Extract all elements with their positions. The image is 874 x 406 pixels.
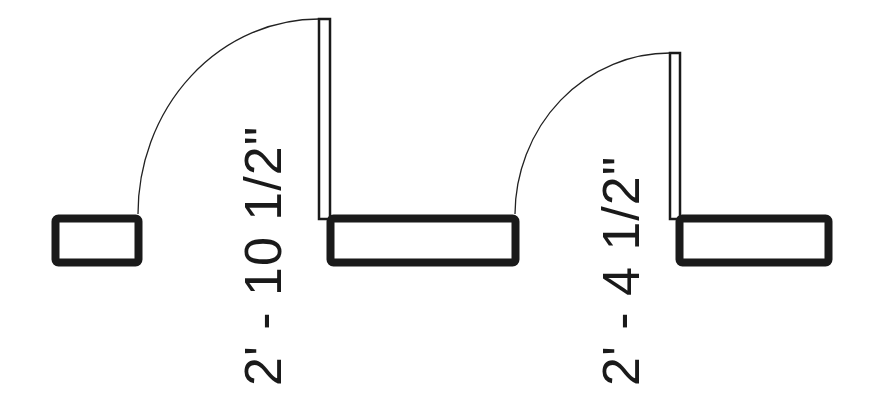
wall-left (56, 219, 139, 263)
door-1-width-label: 2' - 10 1/2" (234, 126, 292, 386)
door-2-leaf (670, 53, 680, 219)
floor-plan-diagram: 2' - 10 1/2" 2' - 4 1/2" (0, 0, 874, 406)
door-2-width-label: 2' - 4 1/2" (592, 156, 650, 386)
wall-middle (331, 219, 516, 263)
door-1-leaf (319, 19, 330, 219)
wall-right (680, 219, 829, 263)
